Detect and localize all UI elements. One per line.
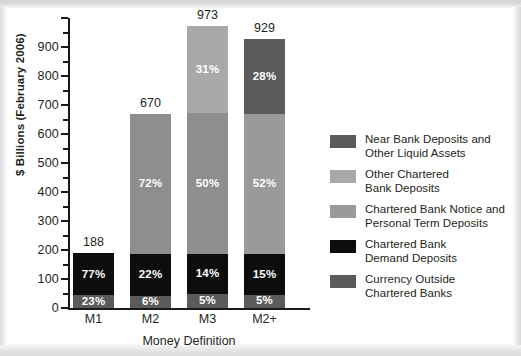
scan-band-top <box>0 0 521 9</box>
legend-item-4[interactable]: Currency OutsideChartered Banks <box>330 273 510 300</box>
y-tick-minor <box>63 293 68 295</box>
legend-label-line2: Chartered Banks <box>365 287 455 301</box>
y-tick-major <box>61 133 68 135</box>
y-tick-minor <box>63 90 68 92</box>
bar-segment[interactable]: 5% <box>244 295 285 308</box>
bar-group-m2[interactable]: 72%22%6%670M2 <box>130 16 171 308</box>
stacked-bar[interactable]: 77%23% <box>73 253 114 308</box>
legend-item-3[interactable]: Chartered BankDemand Deposits <box>330 238 510 265</box>
x-category-label: M3 <box>187 312 228 326</box>
y-tick-label: 700 <box>38 98 59 112</box>
bar-segment[interactable]: 6% <box>130 296 171 308</box>
y-tick-minor <box>63 177 68 179</box>
y-tick-major <box>61 162 68 164</box>
stacked-bar[interactable]: 72%22%6% <box>130 114 171 308</box>
y-tick-major <box>61 249 68 251</box>
legend-item-2[interactable]: Chartered Bank Notice andPersonal Term D… <box>330 203 510 230</box>
legend-swatch-icon <box>330 205 356 218</box>
bar-segment-label: 22% <box>139 269 163 281</box>
legend-swatch-icon <box>330 170 356 183</box>
bar-segment-label: 14% <box>196 268 220 280</box>
y-tick-label: 800 <box>38 69 59 83</box>
legend-swatch-icon <box>330 240 356 253</box>
scan-frame-right <box>512 7 521 345</box>
bar-segment[interactable]: 50% <box>187 113 228 254</box>
y-tick-minor <box>63 119 68 121</box>
bar-total-label: 929 <box>244 21 285 35</box>
y-tick-label: 100 <box>38 272 59 286</box>
legend-label-line2: Demand Deposits <box>365 252 457 266</box>
x-category-label: M2+ <box>244 312 285 326</box>
y-tick-major <box>61 278 68 280</box>
legend-item-1[interactable]: Other CharteredBank Deposits <box>330 168 510 195</box>
legend-label-line2: Other Liquid Assets <box>365 147 491 161</box>
bar-total-label: 670 <box>130 96 171 110</box>
y-tick-major <box>61 46 68 48</box>
y-tick-major <box>61 75 68 77</box>
y-tick-major <box>61 220 68 222</box>
y-axis-line <box>68 18 70 310</box>
bar-segment-label: 28% <box>253 71 277 83</box>
y-tick-major <box>61 191 68 193</box>
bar-segment[interactable]: 14% <box>187 254 228 294</box>
stacked-bar[interactable]: 28%52%15%5% <box>244 39 285 308</box>
y-tick-minor <box>63 206 68 208</box>
scan-frame-left <box>0 7 7 345</box>
bar-segment-label: 5% <box>199 295 216 307</box>
legend-label-line1: Currency Outside <box>365 273 455 287</box>
legend-label: Other CharteredBank Deposits <box>365 168 449 195</box>
legend-label-line1: Near Bank Deposits and <box>365 133 491 147</box>
y-tick-label: 400 <box>38 185 59 199</box>
bar-segment-label: 5% <box>256 295 273 307</box>
bar-segment-label: 77% <box>82 269 106 281</box>
legend-label-line1: Chartered Bank <box>365 238 457 252</box>
bar-segment[interactable]: 22% <box>130 254 171 297</box>
y-tick-minor <box>63 148 68 150</box>
bar-segment[interactable]: 31% <box>187 26 228 113</box>
stacked-bar[interactable]: 31%50%14%5% <box>187 26 228 308</box>
bar-total-label: 188 <box>73 235 114 249</box>
bar-segment[interactable]: 23% <box>73 295 114 308</box>
bar-segment-label: 31% <box>196 64 220 76</box>
legend-item-0[interactable]: Near Bank Deposits andOther Liquid Asset… <box>330 133 510 160</box>
legend-label-line1: Chartered Bank Notice and <box>365 203 505 217</box>
y-tick-label: 500 <box>38 156 59 170</box>
chart-figure: $ Billions (February 2006) 0100200300400… <box>0 0 521 356</box>
plot-area: 0100200300400500600700800900 77%23%188M1… <box>68 18 310 310</box>
legend-label: Chartered Bank Notice andPersonal Term D… <box>365 203 505 230</box>
x-axis-title: Money Definition <box>68 334 310 348</box>
bar-segment[interactable]: 5% <box>187 294 228 308</box>
bar-segment[interactable]: 52% <box>244 114 285 254</box>
bar-group-m3[interactable]: 31%50%14%5%973M3 <box>187 16 228 308</box>
legend-label: Near Bank Deposits andOther Liquid Asset… <box>365 133 491 160</box>
bar-group-m1[interactable]: 77%23%188M1 <box>73 16 114 308</box>
y-tick-label: 600 <box>38 127 59 141</box>
bar-group-m2plus[interactable]: 28%52%15%5%929M2+ <box>244 16 285 308</box>
chart-legend: Near Bank Deposits andOther Liquid Asset… <box>330 133 510 308</box>
y-tick-minor <box>63 264 68 266</box>
legend-label-line1: Other Chartered <box>365 168 449 182</box>
y-tick-label: 900 <box>38 40 59 54</box>
x-category-label: M2 <box>130 312 171 326</box>
legend-swatch-icon <box>330 135 356 148</box>
y-tick-major <box>61 104 68 106</box>
legend-label: Chartered BankDemand Deposits <box>365 238 457 265</box>
bar-segment-label: 52% <box>253 178 277 190</box>
y-tick-minor <box>63 32 68 34</box>
legend-label-line2: Bank Deposits <box>365 182 449 196</box>
legend-label: Currency OutsideChartered Banks <box>365 273 455 300</box>
y-axis-title: $ Billions (February 2006) <box>14 33 26 176</box>
bar-segment[interactable]: 28% <box>244 39 285 114</box>
bar-total-label: 973 <box>187 8 228 22</box>
x-category-label: M1 <box>73 312 114 326</box>
x-axis-line <box>68 308 310 310</box>
y-tick-major <box>61 307 68 309</box>
bar-segment[interactable]: 72% <box>130 114 171 254</box>
bar-segment[interactable]: 77% <box>73 253 114 295</box>
y-tick-major <box>61 17 68 19</box>
y-tick-minor <box>63 61 68 63</box>
y-tick-label: 200 <box>38 243 59 257</box>
bar-segment[interactable]: 15% <box>244 254 285 294</box>
legend-swatch-icon <box>330 275 356 288</box>
legend-label-line2: Personal Term Deposits <box>365 217 505 231</box>
